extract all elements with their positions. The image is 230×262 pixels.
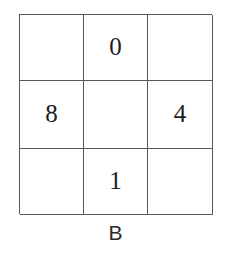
grid-cell-r3c1[interactable] [20, 149, 84, 215]
figure-label: B [108, 221, 122, 244]
grid-cell-r1c1[interactable] [20, 15, 84, 81]
number-grid-figure: 0 8 4 1 B [0, 0, 230, 262]
grid-cell-value: 4 [174, 101, 187, 126]
grid-cell-r1c2[interactable]: 0 [84, 15, 148, 81]
grid-cell-value: 0 [109, 34, 122, 59]
grid-cell-r3c3[interactable] [148, 149, 213, 215]
grid-cell-r2c3[interactable]: 4 [148, 81, 213, 149]
grid-cell-r3c2[interactable]: 1 [84, 149, 148, 215]
number-grid: 0 8 4 1 [19, 14, 212, 214]
grid-cell-value: 1 [109, 168, 122, 193]
grid-cell-r2c1[interactable]: 8 [20, 81, 84, 149]
figure-caption: B [19, 222, 212, 244]
grid-cell-r1c3[interactable] [148, 15, 213, 81]
grid-cell-r2c2[interactable] [84, 81, 148, 149]
grid-cell-value: 8 [45, 101, 58, 126]
